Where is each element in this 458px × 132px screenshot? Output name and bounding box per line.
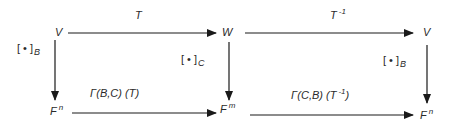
- label-coord-C: [ • ]C: [181, 54, 205, 65]
- node-v-left: V: [55, 27, 62, 38]
- label-T: T: [135, 10, 142, 21]
- commutative-diagram: V W V T T-1 [ • ]B [ • ]C [ • ]B Fn Fm F…: [0, 0, 458, 132]
- label-coord-B-left: [ • ]B: [17, 43, 40, 54]
- node-w: W: [222, 27, 232, 38]
- node-F-n-right: Fn: [420, 110, 433, 121]
- label-gamma-BC: Γ(B,C) (T): [90, 88, 139, 99]
- label-T-inverse: T-1: [330, 10, 346, 21]
- node-F-m: Fm: [220, 104, 235, 115]
- node-v-right: V: [423, 27, 430, 38]
- node-F-n-left: Fn: [50, 106, 63, 117]
- label-gamma-CB: Γ(C,B) (T-1): [291, 90, 349, 101]
- label-coord-B-right: [ • ]B: [383, 55, 406, 66]
